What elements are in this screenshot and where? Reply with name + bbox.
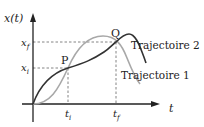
trajectory-2-label: Trajectoire 2 [131, 39, 200, 51]
axes [22, 13, 160, 122]
xi-tick-label: xi [21, 62, 29, 76]
tf-tick-label: tf [113, 108, 121, 122]
ti-tick-label: ti [65, 108, 71, 122]
point-p-label: P [61, 54, 69, 67]
trajectory-diagram: x(t) t xf xi ti tf P Q Trajectoire 2 Tra… [0, 0, 204, 127]
xf-tick-label: xf [21, 37, 31, 51]
x-axis-label: t [169, 102, 174, 115]
guide-lines [33, 42, 116, 104]
y-axis-label: x(t) [4, 12, 23, 25]
point-q-label: Q [111, 27, 120, 40]
x-axis-arrow-icon [151, 101, 160, 107]
trajectory-1-label: Trajectoire 1 [121, 69, 190, 81]
y-axis-arrow-icon [30, 13, 36, 22]
